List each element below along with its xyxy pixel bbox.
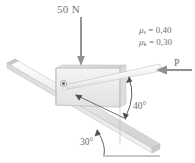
incline-angle-label: 30° [80,138,93,148]
static-friction-coefficient-label: μs = 0,40 [139,26,171,36]
rod-angle-arc [126,79,132,116]
force-p-label: P [174,58,180,68]
figure-canvas: 50 N μs = 0,40 μk = 0,30 P 40° 30° [0,0,195,163]
rod-angle-label: 40° [133,102,146,112]
mu-kinetic-subscript: k [144,40,147,47]
block-top-face [56,65,126,68]
block-right-face [120,65,126,107]
incline-angle-arc [98,132,104,155]
rod-angle-arrowhead-bottom [123,113,129,120]
pivot-pin [60,80,66,86]
pivot-center-dot [62,82,65,85]
kinetic-friction-coefficient-label: μk = 0,30 [139,38,172,48]
mu-static-value: = 0,40 [148,25,171,35]
applied-load-arrow [77,17,85,66]
mu-static-subscript: s [144,28,147,35]
mu-kinetic-value: = 0,30 [149,37,172,47]
applied-load-arrowhead [77,56,85,66]
applied-load-label: 50 N [57,4,80,15]
